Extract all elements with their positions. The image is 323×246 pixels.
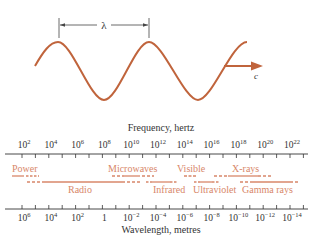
frequency-ticks — [22, 154, 303, 158]
wavelength-axis-title: Wavelength, metres — [121, 224, 200, 235]
band-label-gamma-rays: Gamma rays — [242, 184, 293, 195]
tick-label: 1020 — [257, 138, 273, 150]
tick-label: 10−6 — [177, 211, 194, 223]
electromagnetic-spectrum-diagram: λ c Frequency, hertz 1021041061081010101… — [0, 0, 323, 246]
band-label-microwaves: Microwaves — [108, 163, 158, 174]
wavelength-ticks — [22, 205, 303, 209]
frequency-tick-labels: 1021041061081010101210141016101810201022 — [18, 138, 300, 150]
tick-label: 1 — [102, 213, 107, 223]
tick-label: 10−14 — [282, 211, 302, 223]
tick-label: 10−8 — [203, 211, 219, 223]
tick-label: 104 — [44, 211, 58, 223]
tick-label: 102 — [71, 211, 84, 223]
tick-label: 106 — [18, 211, 32, 223]
tick-label: 1014 — [177, 138, 194, 150]
velocity-arrow-icon — [224, 62, 263, 71]
speed-of-light-label: c — [254, 71, 258, 81]
tick-label: 104 — [44, 138, 58, 150]
band-label-infrared: Infrared — [153, 184, 185, 195]
wavelength-symbol: λ — [101, 19, 107, 31]
band-label-radio: Radio — [68, 184, 92, 195]
frequency-axis-title: Frequency, hertz — [128, 122, 195, 133]
tick-label: 10−12 — [255, 211, 275, 223]
tick-label: 108 — [98, 138, 111, 150]
tick-label: 106 — [71, 138, 85, 150]
tick-label: 1022 — [284, 138, 300, 150]
band-label-xrays: X-rays — [232, 163, 259, 174]
tick-label: 102 — [18, 138, 31, 150]
tick-label: 1010 — [123, 138, 139, 150]
wavelength-tick-labels: 106104102110−210−410−610−810−1010−1210−1… — [18, 211, 303, 223]
tick-label: 1012 — [150, 138, 166, 150]
band-label-power: Power — [12, 163, 38, 174]
tick-label: 1018 — [230, 138, 246, 150]
tick-label: 10−10 — [229, 211, 249, 223]
band-label-visible: Visible — [177, 163, 206, 174]
tick-label: 10−4 — [150, 211, 167, 223]
sine-wave — [35, 42, 247, 100]
tick-label: 1016 — [204, 138, 221, 150]
band-label-ultraviolet: Ultraviolet — [193, 184, 237, 195]
tick-label: 10−2 — [123, 211, 139, 223]
